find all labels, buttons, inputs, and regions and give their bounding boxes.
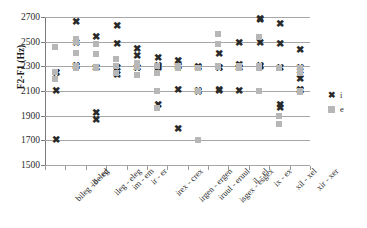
legend-label: e xyxy=(340,104,344,114)
data-point-e xyxy=(113,70,119,76)
gridline xyxy=(45,42,310,43)
data-point-i: ✖ xyxy=(154,53,161,63)
data-point-e xyxy=(297,70,303,76)
data-point-i: ✖ xyxy=(276,19,283,29)
data-point-i: ✖ xyxy=(174,124,181,134)
data-point-e xyxy=(154,105,160,111)
x-tick-label: id - ed xyxy=(88,166,110,188)
y-tick-label: 1700 xyxy=(6,135,40,145)
data-point-i: ✖ xyxy=(52,68,59,78)
y-tick-mark xyxy=(41,91,45,92)
data-point-e xyxy=(73,50,79,56)
gridline xyxy=(45,116,310,117)
data-point-i: ✖ xyxy=(174,56,181,66)
data-point-i: ✖ xyxy=(276,63,283,73)
data-point-i: ✖ xyxy=(194,63,201,73)
data-point-e xyxy=(52,69,58,75)
x-tick-label: xir - xer xyxy=(314,166,340,192)
data-point-i: ✖ xyxy=(72,17,79,27)
data-point-i: ✖ xyxy=(276,103,283,113)
data-point-e xyxy=(52,44,58,50)
y-tick-label: 2300 xyxy=(6,61,40,71)
data-point-i: ✖ xyxy=(133,63,140,73)
data-point-i: ✖ xyxy=(133,63,140,73)
x-tick-label-text: xil - xel xyxy=(293,166,319,192)
gridline xyxy=(45,66,310,67)
gridline xyxy=(45,140,310,141)
data-point-i: ✖ xyxy=(174,85,181,95)
data-point-e xyxy=(93,51,99,57)
x-tick-label: xil - xel xyxy=(293,166,319,192)
data-point-e xyxy=(134,72,140,78)
x-tick-label-text: xir - xer xyxy=(314,166,340,192)
y-tick-label: 1900 xyxy=(6,111,40,121)
data-point-i: ✖ xyxy=(296,70,303,80)
y-tick-label: 1500 xyxy=(6,160,40,170)
data-point-i: ✖ xyxy=(113,21,120,31)
gridline xyxy=(45,17,310,18)
y-tick-label: 2100 xyxy=(6,86,40,96)
x-tick-label-text: id - ed xyxy=(88,166,110,188)
data-point-i: ✖ xyxy=(235,63,242,73)
legend-marker-x-icon: ✖ xyxy=(327,91,336,100)
legend-label: i xyxy=(340,90,342,100)
data-point-i: ✖ xyxy=(92,63,99,73)
data-point-e xyxy=(52,76,58,82)
data-point-i: ✖ xyxy=(276,100,283,110)
data-point-i: ✖ xyxy=(296,45,303,55)
y-tick-mark xyxy=(41,42,45,43)
data-point-i: ✖ xyxy=(235,38,242,48)
data-point-e xyxy=(276,121,282,127)
data-point-e xyxy=(154,70,160,76)
y-tick-mark xyxy=(41,140,45,141)
data-point-i: ✖ xyxy=(256,14,263,24)
y-tick-label: 2500 xyxy=(6,37,40,47)
data-point-i: ✖ xyxy=(72,38,79,48)
data-point-i: ✖ xyxy=(92,32,99,42)
data-point-i: ✖ xyxy=(92,63,99,73)
data-point-i: ✖ xyxy=(215,63,222,73)
data-point-i: ✖ xyxy=(235,63,242,73)
data-point-i: ✖ xyxy=(296,85,303,95)
data-point-e xyxy=(134,60,140,66)
plot-area: ✖✖✖✖✖✖✖✖✖✖✖✖✖✖✖✖✖✖✖✖✖✖✖✖✖✖✖✖✖✖✖✖✖✖✖✖✖✖✖✖… xyxy=(45,17,310,165)
x-tick-label-text: ix - ex xyxy=(271,166,293,188)
data-point-i: ✖ xyxy=(215,63,222,73)
data-point-i: ✖ xyxy=(133,44,140,54)
data-point-i: ✖ xyxy=(113,63,120,73)
data-point-e xyxy=(256,34,262,40)
data-point-i: ✖ xyxy=(113,39,120,49)
x-axis-tick-labels: bileg - belegid - edileg - elegim - emir… xyxy=(45,166,310,228)
data-point-i: ✖ xyxy=(113,70,120,80)
y-tick-mark xyxy=(41,116,45,117)
legend-item[interactable]: ✖i xyxy=(327,88,365,102)
data-point-e xyxy=(113,56,119,62)
gridline xyxy=(45,91,310,92)
y-tick-label: 2700 xyxy=(6,12,40,22)
legend-item[interactable]: e xyxy=(327,102,365,116)
y-axis-tick-labels: 2700250023002100190017001500 xyxy=(0,0,40,228)
data-point-i: ✖ xyxy=(154,100,161,110)
y-tick-mark xyxy=(41,66,45,67)
data-point-i: ✖ xyxy=(52,68,59,78)
data-point-i: ✖ xyxy=(296,74,303,84)
data-point-i: ✖ xyxy=(235,60,242,70)
data-point-i: ✖ xyxy=(215,49,222,59)
chart-legend: ✖ie xyxy=(327,88,365,116)
scatter-chart: F2-F1 (Hz) 2700250023002100190017001500 … xyxy=(0,0,367,228)
y-tick-mark xyxy=(41,17,45,18)
data-point-i: ✖ xyxy=(133,51,140,61)
data-point-i: ✖ xyxy=(296,63,303,73)
data-point-i: ✖ xyxy=(256,38,263,48)
data-point-i: ✖ xyxy=(154,63,161,73)
data-point-e xyxy=(215,31,221,37)
data-point-i: ✖ xyxy=(276,39,283,49)
legend-marker-square-icon xyxy=(328,106,335,113)
x-tick-label: ix - ex xyxy=(271,166,293,188)
